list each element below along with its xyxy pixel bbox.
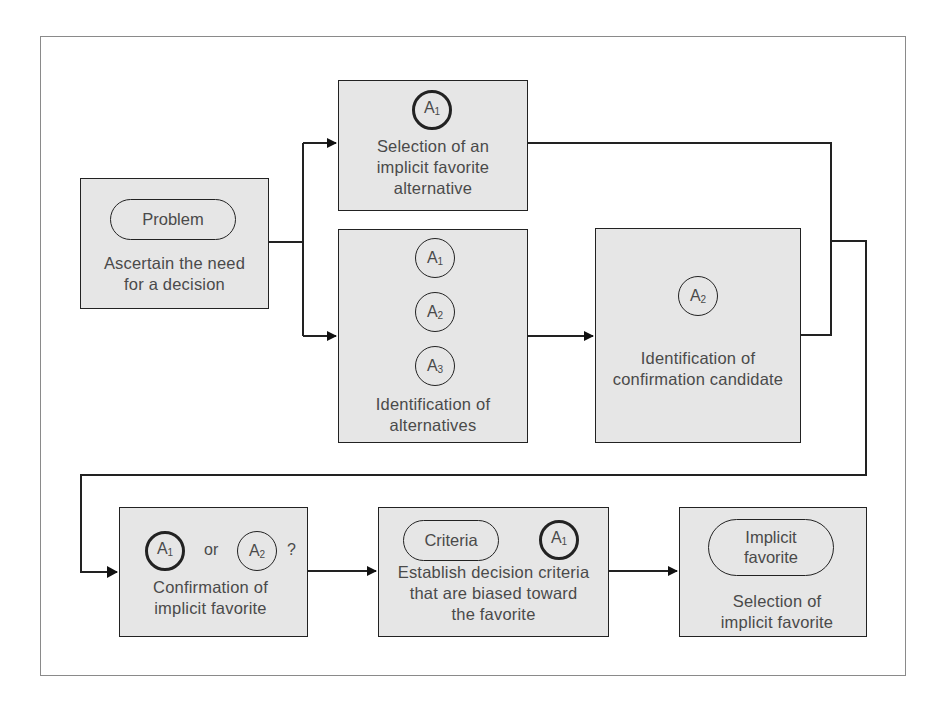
selection-line-1: Selection of an (339, 136, 527, 157)
criteria-line-3: the favorite (379, 604, 608, 625)
alternatives-text: Identification of alternatives (339, 394, 527, 436)
candidate-a2: A2 (678, 276, 718, 316)
problem-line-2: for a decision (81, 274, 268, 295)
circle-subscript: 1 (562, 536, 568, 547)
circle-subscript: 2 (438, 310, 444, 321)
circle-subscript: 1 (435, 106, 441, 117)
circle-letter: A (249, 542, 260, 559)
confirmation-box: A1 or A2 ? Confirmation of implicit favo… (119, 507, 308, 637)
alternatives-line-2: alternatives (339, 415, 527, 436)
final-selection-box: Implicit favorite Selection of implicit … (679, 507, 867, 637)
question-mark: ? (287, 541, 296, 559)
candidate-text: Identification of confirmation candidate (596, 348, 800, 390)
final-line-1: Selection of (688, 591, 866, 612)
alternatives-line-1: Identification of (339, 394, 527, 415)
problem-box: Problem Ascertain the need for a decisio… (80, 178, 269, 309)
problem-line-1: Ascertain the need (81, 253, 268, 274)
criteria-pill-label: Criteria (424, 531, 477, 549)
selection-box: A1 Selection of an implicit favorite alt… (338, 80, 528, 211)
circle-letter: A (551, 529, 562, 546)
confirmation-line-1: Confirmation of (114, 577, 307, 598)
confirmation-a2: A2 (237, 531, 277, 571)
final-selection-text: Selection of implicit favorite (688, 591, 866, 633)
circle-letter: A (427, 303, 438, 320)
candidate-line-2: confirmation candidate (596, 369, 800, 390)
confirmation-a1-emphasized: A1 (145, 531, 185, 571)
circle-subscript: 2 (260, 549, 266, 560)
confirmation-line-2: implicit favorite (114, 598, 307, 619)
circle-subscript: 2 (701, 294, 707, 305)
problem-pill-label: Problem (142, 210, 203, 228)
circle-letter: A (690, 287, 701, 304)
criteria-pill: Criteria (403, 520, 499, 561)
alternatives-box: A1 A2 A3 Identification of alternatives (338, 229, 528, 443)
alternative-a1: A1 (415, 238, 455, 278)
circle-subscript: 1 (168, 547, 174, 558)
circle-letter: A (427, 357, 438, 374)
criteria-line-1: Establish decision criteria (379, 562, 608, 583)
selection-line-3: alternative (339, 178, 527, 199)
circle-subscript: 1 (438, 256, 444, 267)
selection-line-2: implicit favorite (339, 157, 527, 178)
implicit-favorite-pill: Implicit favorite (708, 519, 834, 576)
final-line-2: implicit favorite (688, 612, 866, 633)
pill-line-2: favorite (709, 547, 833, 567)
criteria-box: Criteria A1 Establish decision criteria … (378, 507, 609, 637)
circle-letter: A (157, 540, 168, 557)
circle-subscript: 3 (438, 364, 444, 375)
selection-text: Selection of an implicit favorite altern… (339, 136, 527, 199)
criteria-a1-emphasized: A1 (539, 520, 579, 560)
alternative-a2: A2 (415, 292, 455, 332)
pill-line-1: Implicit (709, 527, 833, 547)
criteria-text: Establish decision criteria that are bia… (379, 562, 608, 625)
candidate-box: A2 Identification of confirmation candid… (595, 228, 801, 443)
criteria-line-2: that are biased toward (379, 583, 608, 604)
alternative-a1-emphasized: A1 (412, 90, 452, 130)
problem-text: Ascertain the need for a decision (81, 253, 268, 295)
confirmation-text: Confirmation of implicit favorite (114, 577, 307, 619)
or-label: or (204, 541, 218, 559)
problem-pill: Problem (110, 199, 236, 240)
circle-letter: A (427, 249, 438, 266)
alternative-a3: A3 (415, 346, 455, 386)
circle-letter: A (424, 99, 435, 116)
candidate-line-1: Identification of (596, 348, 800, 369)
